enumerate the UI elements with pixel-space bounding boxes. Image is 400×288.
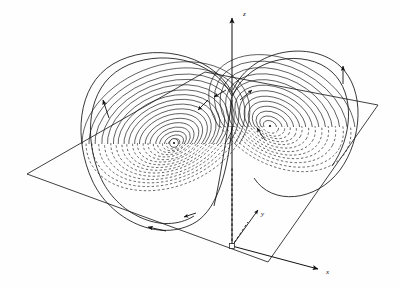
left-fixed-point-dot — [173, 142, 175, 144]
right-fixed-point-dot — [269, 125, 271, 127]
lorenz-figure: z y x — [0, 0, 400, 288]
lorenz-attractor-drawing: z y x — [0, 0, 400, 288]
figure-background — [0, 0, 400, 288]
origin-marker — [230, 244, 235, 249]
z-axis-label: z — [242, 10, 246, 18]
